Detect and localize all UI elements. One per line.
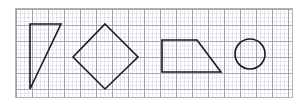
graph-paper-panel (15, 8, 293, 98)
screenshot-root (0, 0, 308, 109)
right-trapezoid-shape[interactable] (162, 40, 221, 72)
shapes-canvas (16, 9, 293, 98)
diamond-shape[interactable] (73, 24, 138, 89)
circle-shape[interactable] (235, 39, 265, 69)
right-triangle-shape[interactable] (30, 24, 61, 89)
